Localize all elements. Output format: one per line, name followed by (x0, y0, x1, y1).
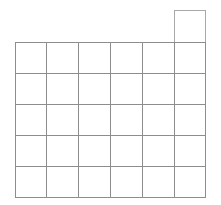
grid-cell-r4-c6[interactable] (174, 135, 206, 166)
grid-cell-r5-c1[interactable] (15, 166, 47, 197)
grid-cell-r5-c4[interactable] (110, 166, 142, 197)
grid-cell-protruding[interactable] (174, 11, 206, 43)
grid-cell-r2-c1[interactable] (15, 73, 47, 104)
grid-cell-r4-c4[interactable] (110, 135, 142, 166)
grid-cell-r2-c3[interactable] (79, 73, 111, 104)
grid-cell-r3-c3[interactable] (79, 104, 111, 135)
grid-svg (0, 0, 221, 205)
grid-cell-r5-c2[interactable] (47, 166, 79, 197)
grid-cell-r4-c5[interactable] (142, 135, 174, 166)
grid-cell-r2-c5[interactable] (142, 73, 174, 104)
grid-cell-r1-c4[interactable] (110, 42, 142, 73)
grid-cell-r1-c3[interactable] (79, 42, 111, 73)
grid-cell-r5-c3[interactable] (79, 166, 111, 197)
grid-cell-r4-c2[interactable] (47, 135, 79, 166)
grid-cell-r3-c5[interactable] (142, 104, 174, 135)
grid-cell-r3-c6[interactable] (174, 104, 206, 135)
grid-cell-r2-c2[interactable] (47, 73, 79, 104)
grid-figure (0, 0, 221, 205)
grid-cell-r2-c6[interactable] (174, 73, 206, 104)
grid-cell-r1-c1[interactable] (15, 42, 47, 73)
grid-cell-r1-c2[interactable] (47, 42, 79, 73)
grid-cell-r1-c6[interactable] (174, 42, 206, 73)
grid-cell-r1-c5[interactable] (142, 42, 174, 73)
grid-cell-r3-c2[interactable] (47, 104, 79, 135)
grid-cell-r5-c6[interactable] (174, 166, 206, 197)
grid-cell-r2-c4[interactable] (110, 73, 142, 104)
grid-cell-r4-c1[interactable] (15, 135, 47, 166)
grid-cell-r3-c1[interactable] (15, 104, 47, 135)
grid-cell-r5-c5[interactable] (142, 166, 174, 197)
grid-cell-r4-c3[interactable] (79, 135, 111, 166)
grid-cell-r3-c4[interactable] (110, 104, 142, 135)
